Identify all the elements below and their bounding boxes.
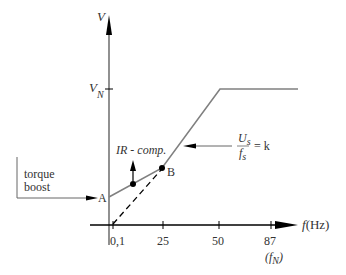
ir-comp-label: IR - comp. bbox=[116, 143, 166, 158]
point-a-label: A bbox=[98, 191, 107, 206]
ratio-numerator: Us bbox=[238, 131, 251, 146]
y-axis-arrow-icon bbox=[106, 15, 112, 35]
vn-label-sub: N bbox=[97, 89, 104, 100]
x-axis-label: f(Hz) bbox=[302, 217, 329, 233]
x-axis-arrow-icon bbox=[275, 221, 298, 229]
tick-label-50: 50 bbox=[212, 234, 224, 249]
vn-label: VN bbox=[89, 80, 104, 98]
torque-boost-label-line2: boost bbox=[24, 180, 50, 195]
ratio-equals-k: = k bbox=[254, 139, 270, 154]
ir-comp-dot bbox=[130, 181, 136, 187]
fn-sub: N bbox=[272, 255, 279, 266]
ratio-num-main: U bbox=[238, 131, 247, 145]
torque-boost-arrow-icon bbox=[86, 196, 98, 201]
ratio-den-sub: s bbox=[242, 151, 246, 162]
tick-label-87: 87 bbox=[264, 234, 276, 249]
fn-label: (fN) bbox=[265, 250, 283, 265]
ratio-num-sub: s bbox=[247, 136, 251, 147]
ideal-dashed-line bbox=[113, 170, 161, 224]
tick-label-0-1: 0,1 bbox=[110, 234, 125, 249]
fn-suffix: ) bbox=[279, 250, 283, 264]
x-axis-label-unit: (Hz) bbox=[306, 217, 330, 232]
ratio-pointer-arrow-icon bbox=[183, 144, 196, 149]
ir-comp-arrow-icon bbox=[130, 160, 136, 171]
vf-diagram-canvas bbox=[0, 0, 346, 275]
point-b-label: B bbox=[167, 165, 175, 180]
ratio-denominator: fs bbox=[239, 146, 246, 161]
tick-label-25: 25 bbox=[157, 234, 169, 249]
y-axis-label: V bbox=[97, 9, 105, 25]
vn-label-main: V bbox=[89, 80, 97, 95]
point-b-dot bbox=[159, 165, 165, 171]
